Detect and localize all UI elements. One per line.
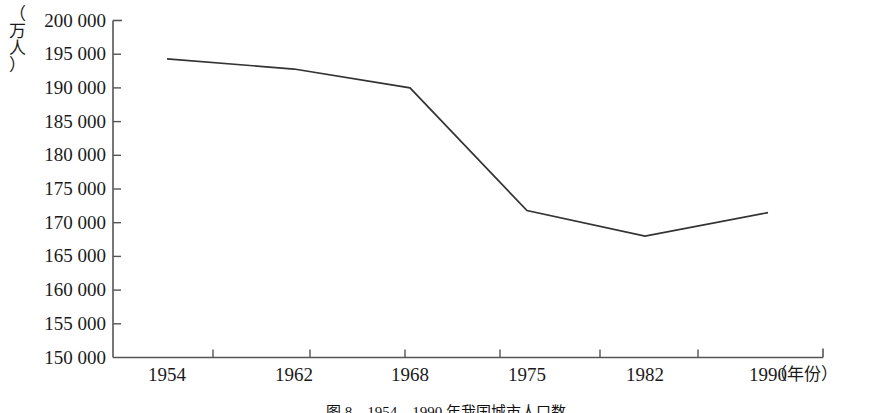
x-axis-tick-label: 1982 [605,365,685,384]
y-axis-tick-label: 200 000 [28,11,106,30]
y-axis-tick-label: 185 000 [28,112,106,131]
line-chart-figure: （ 万 人 ） 200 000195 000190 000185 000180 … [0,0,892,413]
chart-canvas [0,0,892,413]
y-axis-tick-label: 190 000 [28,78,106,97]
x-axis-tick-marks [213,350,698,358]
y-axis-tick-label: 160 000 [28,280,106,299]
x-axis-tick-label: 1975 [487,365,567,384]
x-axis-tick-label: 1954 [127,365,207,384]
y-axis-tick-label: 180 000 [28,145,106,164]
x-axis-title: （年份） [770,365,838,384]
y-axis-tick-label: 170 000 [28,213,106,232]
y-axis-tick-marks [113,54,121,324]
y-axis-tick-label: 165 000 [28,246,106,265]
figure-caption: 图 8 1954—1990 年我国城市人口数 [0,404,892,413]
y-axis-tick-label: 150 000 [28,348,106,367]
y-axis-tick-label: 195 000 [28,44,106,63]
x-axis-tick-label: 1962 [254,365,334,384]
population-data-line [167,59,768,236]
y-axis-tick-label: 175 000 [28,179,106,198]
axes-group [113,21,823,358]
y-axis-tick-label: 155 000 [28,314,106,333]
x-axis-tick-label: 1968 [370,365,450,384]
